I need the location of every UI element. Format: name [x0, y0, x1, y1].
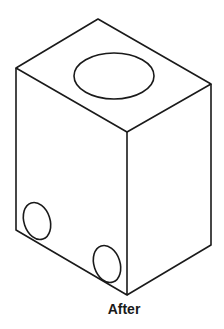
block-top-face	[16, 19, 211, 132]
left-face-hole-1	[19, 199, 55, 243]
figure-caption: After	[0, 301, 224, 317]
isometric-block-drawing	[0, 0, 224, 329]
left-face-hole-2	[89, 242, 125, 286]
block-right-face	[127, 84, 211, 295]
top-hole	[74, 53, 154, 99]
block-left-face	[16, 68, 127, 295]
